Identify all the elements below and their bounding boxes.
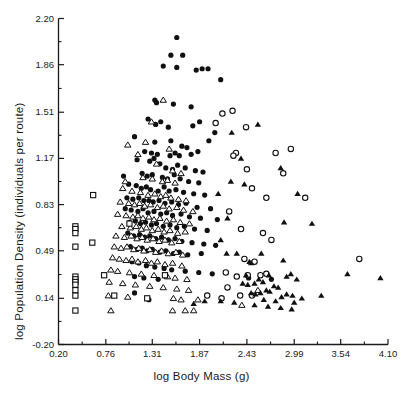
- data-point: [162, 184, 167, 189]
- data-point: [212, 130, 217, 135]
- data-point: [220, 111, 225, 116]
- data-point: [251, 302, 257, 307]
- data-point: [199, 251, 204, 256]
- data-point: [169, 308, 175, 313]
- data-point: [109, 255, 115, 260]
- data-point: [102, 273, 107, 278]
- data-point: [73, 244, 78, 249]
- data-point: [194, 68, 199, 73]
- data-point: [234, 274, 239, 279]
- data-point: [258, 251, 264, 256]
- data-point: [228, 130, 234, 135]
- data-point: [138, 221, 143, 226]
- data-point: [149, 222, 154, 227]
- data-point: [171, 101, 176, 106]
- data-point: [169, 260, 175, 265]
- data-point: [145, 296, 150, 301]
- data-point: [73, 308, 78, 313]
- data-point: [195, 297, 201, 302]
- data-point: [112, 293, 117, 298]
- data-point: [123, 206, 128, 211]
- data-point: [129, 256, 135, 261]
- data-point: [132, 282, 138, 287]
- plot-canvas: [0, 0, 403, 395]
- data-point: [201, 298, 207, 303]
- data-point: [189, 104, 194, 109]
- data-point: [205, 228, 210, 233]
- data-point: [154, 204, 160, 209]
- data-point: [231, 299, 237, 304]
- data-point: [134, 183, 139, 188]
- data-point: [195, 149, 200, 154]
- data-point: [174, 35, 179, 40]
- data-point: [155, 226, 161, 231]
- data-point: [278, 165, 284, 170]
- data-point: [202, 192, 207, 197]
- data-point: [238, 156, 244, 161]
- data-point: [294, 276, 300, 281]
- data-point: [169, 267, 174, 272]
- data-point: [173, 187, 178, 192]
- data-point: [167, 228, 173, 233]
- data-point: [149, 176, 155, 181]
- data-point: [178, 176, 183, 181]
- x-tick-label: 2.99: [274, 348, 314, 359]
- data-point: [120, 185, 126, 190]
- data-point: [192, 226, 197, 231]
- data-point: [162, 273, 167, 278]
- data-point: [204, 293, 209, 298]
- data-point: [269, 237, 274, 242]
- data-point: [108, 308, 114, 313]
- data-point: [179, 144, 184, 149]
- data-point: [174, 230, 180, 235]
- data-point: [174, 65, 179, 70]
- data-point: [200, 169, 205, 174]
- data-point: [294, 191, 300, 196]
- data-point: [73, 231, 78, 236]
- data-point: [167, 188, 172, 193]
- data-point: [191, 191, 196, 196]
- data-point: [147, 283, 153, 288]
- data-point: [189, 240, 194, 245]
- data-point: [142, 149, 147, 154]
- data-point: [122, 179, 128, 184]
- data-point: [260, 230, 265, 235]
- data-point: [193, 168, 198, 173]
- data-point: [183, 198, 189, 203]
- data-point: [218, 77, 223, 82]
- data-point: [183, 165, 188, 170]
- data-point: [73, 293, 78, 298]
- data-point: [213, 243, 218, 248]
- data-point: [135, 151, 141, 156]
- x-tick-label: 1.31: [132, 348, 172, 359]
- data-point: [194, 205, 199, 210]
- data-point: [205, 66, 210, 71]
- x-axis-title: log Body Mass (g): [0, 370, 403, 382]
- data-point: [243, 124, 248, 129]
- data-point: [126, 270, 132, 275]
- x-tick-label: 2.43: [227, 348, 267, 359]
- data-point: [181, 190, 186, 195]
- data-point: [91, 192, 96, 197]
- data-point: [288, 271, 294, 276]
- data-point: [206, 138, 211, 143]
- data-point: [129, 188, 135, 193]
- data-point: [125, 200, 131, 205]
- data-point: [142, 257, 148, 262]
- data-point: [168, 138, 173, 143]
- x-tick-label: 4.10: [368, 348, 403, 359]
- series-filled-triangle: [190, 122, 383, 312]
- data-points: [73, 35, 384, 313]
- data-point: [118, 245, 124, 250]
- data-point: [152, 140, 157, 145]
- data-point: [163, 218, 169, 223]
- data-point: [273, 150, 278, 155]
- data-point: [196, 180, 201, 185]
- data-point: [113, 233, 119, 238]
- data-point: [178, 170, 184, 175]
- data-point: [117, 199, 123, 204]
- data-point: [218, 237, 224, 242]
- data-point: [226, 209, 231, 214]
- data-point: [241, 181, 247, 186]
- y-tick-label: -0.20: [8, 339, 54, 350]
